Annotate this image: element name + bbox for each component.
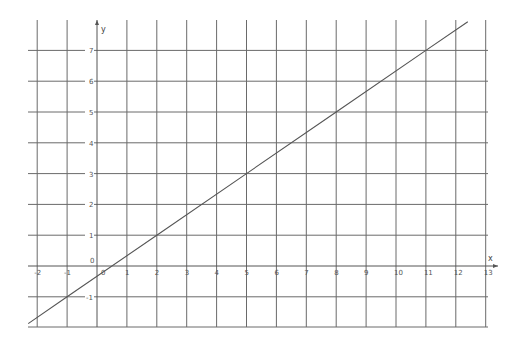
line-chart: xy-2-1012345678910111213-101234567 — [0, 0, 523, 343]
x-tick-label: -2 — [34, 269, 41, 277]
x-tick-label: 11 — [424, 269, 433, 277]
y-tick-label: 1 — [89, 232, 93, 240]
x-tick-label: 1 — [125, 269, 129, 277]
x-tick-label: 12 — [454, 269, 463, 277]
x-tick-label: 13 — [484, 269, 493, 277]
x-tick-label: 9 — [364, 269, 368, 277]
y-tick-label: 3 — [89, 171, 93, 179]
y-tick-label: 6 — [89, 78, 94, 86]
y-tick-label: -1 — [86, 294, 93, 302]
x-axis-arrow-icon — [493, 264, 498, 268]
x-tick-label: -1 — [64, 269, 71, 277]
y-tick-label: 7 — [89, 47, 93, 55]
y-tick-label: 2 — [89, 201, 93, 209]
y-axis-arrow-icon — [95, 20, 99, 25]
x-tick-label: 4 — [215, 269, 220, 277]
y-tick-label: 0 — [90, 257, 94, 265]
x-tick-label: 3 — [185, 269, 189, 277]
x-tick-label: 7 — [304, 269, 308, 277]
x-axis-label: x — [488, 254, 493, 263]
x-tick-label: 6 — [274, 269, 279, 277]
y-tick-label: 4 — [89, 140, 94, 148]
x-tick-label: 2 — [155, 269, 159, 277]
x-tick-label: 10 — [394, 269, 403, 277]
data-line — [28, 22, 468, 324]
y-tick-label: 5 — [89, 109, 93, 117]
x-tick-label: 5 — [245, 269, 249, 277]
y-axis-label: y — [101, 25, 106, 34]
x-tick-label: 8 — [334, 269, 338, 277]
